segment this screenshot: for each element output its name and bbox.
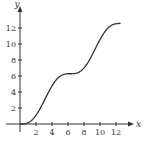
y-tick-label: 2 [11, 104, 16, 113]
y-tick-label: 4 [11, 88, 16, 97]
y-tick-label: 12 [6, 24, 16, 33]
x-axis-label: x [136, 119, 141, 129]
axes: 2468101224681012 [6, 6, 134, 137]
y-tick-label: 10 [6, 40, 16, 49]
y-tick-label: 8 [11, 56, 16, 65]
y-tick-label: 6 [11, 72, 16, 81]
x-tick-label: 2 [33, 128, 38, 137]
y-axis-label: y [13, 0, 20, 9]
data-curve [20, 23, 121, 124]
x-tick-label: 4 [49, 128, 54, 137]
x-tick-label: 8 [81, 128, 86, 137]
x-tick-label: 6 [65, 128, 70, 137]
x-axis-arrow-icon [128, 122, 134, 127]
line-chart: 2468101224681012 x y [0, 0, 154, 148]
x-tick-label: 12 [111, 128, 121, 137]
x-tick-label: 10 [95, 128, 105, 137]
